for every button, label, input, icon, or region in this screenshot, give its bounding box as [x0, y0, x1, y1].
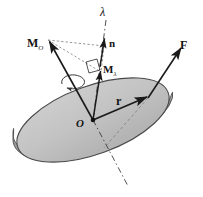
label-force-vector-F: F — [180, 39, 187, 51]
right-angle-marker — [86, 59, 100, 73]
figure-canvas — [0, 0, 203, 197]
label-Mo-main: M — [27, 36, 38, 50]
construction-lines — [48, 40, 104, 72]
label-moment-about-point-O: MO — [27, 37, 43, 52]
label-Mlambda-main: M — [103, 63, 113, 75]
mechanics-figure: MO λ n Mλ F r O — [0, 0, 203, 197]
label-unit-vector-n: n — [109, 38, 115, 49]
rotation-curl-icon — [62, 75, 85, 89]
label-moment-about-axis-lambda: Mλ — [103, 64, 116, 78]
label-origin-point-O: O — [76, 118, 84, 129]
label-Mlambda-subscript: λ — [113, 70, 116, 78]
label-position-vector-r: r — [116, 95, 121, 107]
label-Mo-subscript: O — [38, 44, 43, 52]
origin-dot — [91, 118, 96, 123]
label-axis-lambda: λ — [100, 6, 105, 18]
